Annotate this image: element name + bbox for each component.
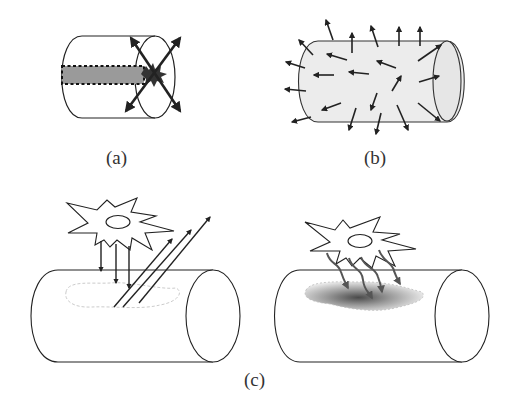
panel-label-a: (a) [106, 147, 127, 169]
cylinder-c1-end [186, 270, 240, 362]
panel-label-c: (c) [244, 369, 265, 391]
panel-c-right [275, 217, 490, 362]
panel-a [62, 36, 180, 118]
panel-label-b: (b) [364, 147, 386, 169]
figure-canvas [0, 0, 519, 408]
cell-nucleus [348, 235, 372, 248]
panel-c-left [31, 198, 240, 362]
panel-b [285, 20, 464, 134]
cylinder-c2-end [435, 270, 489, 362]
incident-arrows [101, 241, 129, 288]
channel [62, 66, 144, 84]
cell-nucleus [106, 216, 130, 229]
tissue-patch [66, 283, 180, 308]
cylinder-b-end [433, 41, 461, 121]
